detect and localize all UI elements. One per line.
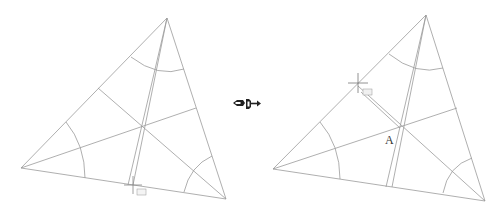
diagram-canvas: A [0, 0, 499, 213]
arrow-right-icon [233, 99, 261, 109]
cursor-tag-box [137, 189, 146, 195]
triangle-before [21, 18, 226, 199]
line-cursor-to-center [361, 92, 400, 128]
line-left-vertex [21, 108, 196, 168]
line-top-vertex [386, 15, 426, 187]
angle-arc-right [184, 156, 212, 192]
cursor-after [348, 73, 372, 95]
line-left-vertex [273, 108, 457, 169]
line-top-vertex-2 [392, 15, 426, 187]
cursor-tag-box [363, 89, 372, 95]
angle-arc-right [443, 158, 472, 193]
line-right-vertex [358, 86, 485, 201]
point-label-a: A [385, 133, 394, 147]
triangle-outline [273, 15, 485, 201]
angle-arc-left [66, 122, 85, 178]
line-top-vertex [128, 18, 167, 185]
triangle-after [273, 15, 485, 201]
line-top-vertex-2 [133, 18, 167, 185]
